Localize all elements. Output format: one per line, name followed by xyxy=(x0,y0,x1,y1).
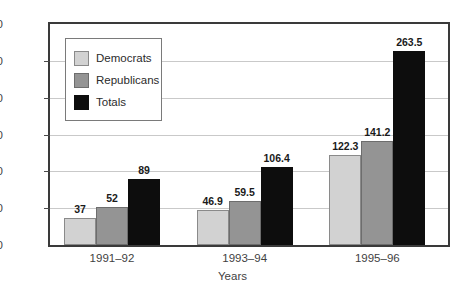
bar-value-label: 263.5 xyxy=(383,36,435,48)
x-axis-tick-label: 1991–92 xyxy=(90,252,135,264)
x-axis-tick-label: 1995–96 xyxy=(355,252,400,264)
y-axis-tick-label: 0 xyxy=(0,239,3,251)
y-axis-tick-mark xyxy=(44,208,50,209)
chart-legend: DemocratsRepublicansTotals xyxy=(65,38,162,121)
y-axis-tick-label: 150 xyxy=(0,129,3,141)
x-axis-title: Years xyxy=(0,270,465,282)
y-axis-tick-label: 200 xyxy=(0,92,3,104)
legend-item-democrats[interactable]: Democrats xyxy=(74,47,155,69)
bar-democrats-1993-94[interactable] xyxy=(197,210,229,245)
bar-value-label: 106.4 xyxy=(251,152,303,164)
bar-republicans-1993-94[interactable] xyxy=(229,201,261,245)
bar-republicans-1995-96[interactable] xyxy=(361,141,393,245)
y-axis-tick-label: 250 xyxy=(0,55,3,67)
y-axis-tick-label: $300 xyxy=(0,18,3,30)
plot-area: 37528946.959.5106.4122.3141.2263.5 Democ… xyxy=(48,22,450,247)
bar-group: 46.959.5106.4 xyxy=(197,24,293,245)
legend-label: Republicans xyxy=(96,74,159,86)
plot-inner: 37528946.959.5106.4122.3141.2263.5 Democ… xyxy=(50,24,448,245)
legend-label: Democrats xyxy=(96,52,152,64)
legend-label: Totals xyxy=(96,96,126,108)
bar-totals-1993-94[interactable] xyxy=(261,167,293,245)
bar-totals-1991-92[interactable] xyxy=(128,179,160,245)
legend-item-totals[interactable]: Totals xyxy=(74,91,155,113)
bar-democrats-1991-92[interactable] xyxy=(64,218,96,245)
y-axis-tick-label: 50 xyxy=(0,202,3,214)
y-axis-tick-mark xyxy=(44,171,50,172)
y-axis-tick-mark xyxy=(44,98,50,99)
bar-totals-1995-96[interactable] xyxy=(393,51,425,245)
y-axis-tick-label: 100 xyxy=(0,165,3,177)
y-axis-tick-mark xyxy=(44,135,50,136)
x-axis-tick-label: 1993–94 xyxy=(222,252,267,264)
bar-democrats-1995-96[interactable] xyxy=(329,155,361,245)
bar-chart: 050100150200250$300 37528946.959.5106.41… xyxy=(0,0,465,290)
bar-value-label: 89 xyxy=(118,164,170,176)
y-axis-tick-mark xyxy=(44,61,50,62)
bar-group: 122.3141.2263.5 xyxy=(329,24,425,245)
legend-swatch-icon xyxy=(74,95,89,110)
legend-item-republicans[interactable]: Republicans xyxy=(74,69,155,91)
legend-swatch-icon xyxy=(74,73,89,88)
legend-swatch-icon xyxy=(74,51,89,66)
bar-republicans-1991-92[interactable] xyxy=(96,207,128,245)
